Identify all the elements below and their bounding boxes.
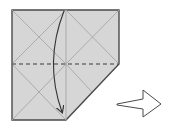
next-step-arrow-icon bbox=[117, 90, 161, 117]
origami-diagram bbox=[0, 0, 180, 133]
